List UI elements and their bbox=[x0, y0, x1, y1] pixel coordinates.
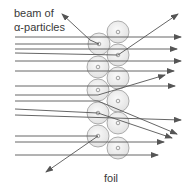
atom-shell bbox=[107, 21, 129, 43]
atom bbox=[87, 79, 109, 101]
beam-label-line1: beam of bbox=[14, 7, 54, 20]
atom bbox=[107, 112, 129, 134]
atom bbox=[107, 21, 129, 43]
beam-label-line2: α-particles bbox=[14, 21, 65, 34]
atom-shell bbox=[107, 90, 129, 112]
atom-shell bbox=[107, 137, 129, 159]
atom bbox=[107, 90, 129, 112]
foil-label: foil bbox=[104, 172, 118, 185]
atom bbox=[87, 56, 109, 78]
atom-shell bbox=[107, 112, 129, 134]
atom-shell bbox=[87, 56, 109, 78]
atom bbox=[107, 137, 129, 159]
atom-shell bbox=[87, 79, 109, 101]
alpha-particle-path bbox=[15, 136, 98, 172]
